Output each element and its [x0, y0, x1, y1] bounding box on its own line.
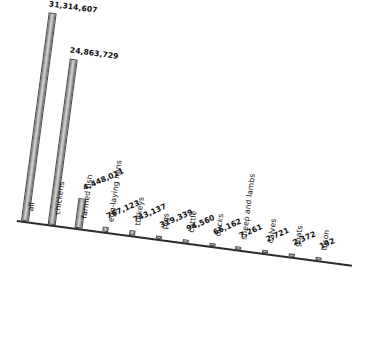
category-label-all: all — [26, 202, 36, 212]
bar-goats — [289, 253, 295, 257]
bar-cattle — [182, 239, 188, 243]
bar-turkeys — [129, 230, 136, 236]
bar-ducks — [209, 242, 215, 246]
bar-egg-laying-hens — [102, 226, 109, 232]
bar-chart: all31,314,607chickens24,863,729farmed fi… — [0, 0, 374, 355]
bar-calves — [262, 250, 268, 254]
bar-bison — [316, 257, 322, 261]
bar-pigs — [155, 235, 161, 239]
plot-area: all31,314,607chickens24,863,729farmed fi… — [17, 220, 352, 265]
bar-sheep-and-lambs — [236, 246, 242, 250]
